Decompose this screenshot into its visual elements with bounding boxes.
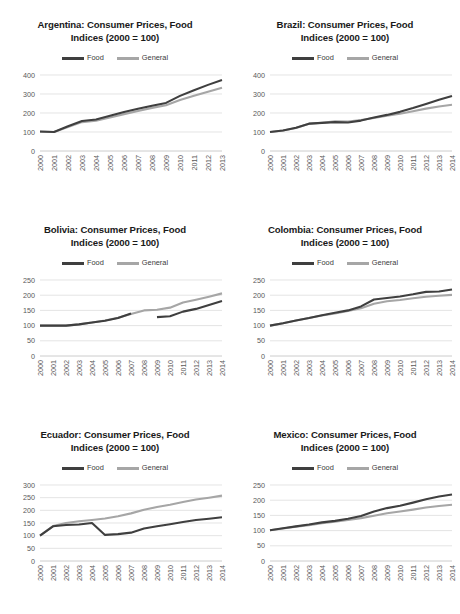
- legend-entry-food[interactable]: Food: [62, 464, 104, 471]
- chart-panel: Brazil: Consumer Prices, FoodIndices (20…: [230, 0, 460, 205]
- legend-entry-food[interactable]: Food: [62, 54, 104, 61]
- x-axis-tick-label: 2005: [331, 565, 340, 581]
- legend-swatch-icon: [347, 262, 369, 265]
- chart-title-line1: Argentina: Consumer Prices, Food: [37, 19, 192, 30]
- legend-label: Food: [317, 259, 334, 266]
- legend-entry-general[interactable]: General: [117, 464, 168, 471]
- y-axis-tick-label: 250: [253, 481, 265, 490]
- chart-legend: FoodGeneral: [230, 257, 460, 269]
- y-axis-tick-label: 100: [253, 321, 265, 330]
- x-axis-tick-label: 2003: [305, 155, 314, 171]
- y-axis-tick-label: 200: [253, 291, 265, 300]
- series-line-food: [270, 289, 452, 325]
- x-axis-tick-label: 2006: [114, 360, 123, 376]
- x-axis-tick-label: 2011: [179, 360, 188, 375]
- chart-panel: Ecuador: Consumer Prices, FoodIndices (2…: [0, 410, 230, 614]
- x-axis-tick-label: 2007: [134, 155, 143, 171]
- legend-entry-general[interactable]: General: [347, 464, 398, 471]
- legend-label: Food: [87, 464, 104, 471]
- line-chart-svg: 0501001502002502000200120022003200420052…: [230, 481, 460, 601]
- x-axis-tick-label: 2000: [36, 155, 45, 171]
- legend-swatch-icon: [347, 57, 369, 60]
- legend-entry-general[interactable]: General: [347, 54, 398, 61]
- chart-title: Argentina: Consumer Prices, FoodIndices …: [0, 0, 230, 44]
- x-axis-tick-label: 2013: [205, 565, 214, 581]
- x-axis-tick-label: 2004: [88, 360, 97, 376]
- legend-entry-general[interactable]: General: [117, 54, 168, 61]
- x-axis-tick-label: 2002: [62, 565, 71, 581]
- x-axis-tick-label: 2011: [190, 155, 199, 170]
- chart-title-line2: Indices (2000 = 100): [14, 31, 216, 44]
- x-axis-tick-label: 2014: [448, 565, 457, 581]
- x-axis-tick-label: 2010: [166, 360, 175, 376]
- x-axis-tick-label: 2000: [266, 155, 275, 171]
- legend-swatch-icon: [292, 262, 314, 265]
- x-axis-tick-label: 2000: [36, 565, 45, 581]
- x-axis-tick-label: 2009: [383, 565, 392, 581]
- chart-title: Colombia: Consumer Prices, FoodIndices (…: [230, 205, 460, 249]
- y-axis-tick-label: 200: [23, 291, 35, 300]
- x-axis-tick-label: 2010: [176, 155, 185, 171]
- legend-swatch-icon: [292, 467, 314, 470]
- x-axis-tick-label: 2011: [409, 155, 418, 170]
- chart-title-line2: Indices (2000 = 100): [244, 441, 446, 454]
- legend-label: Food: [317, 54, 334, 61]
- x-axis-tick-label: 2003: [305, 360, 314, 376]
- legend-label: Food: [87, 259, 104, 266]
- legend-label: Food: [317, 464, 334, 471]
- x-axis-tick-label: 2010: [396, 565, 405, 581]
- y-axis-tick-label: 0: [31, 352, 35, 361]
- chart-title: Mexico: Consumer Prices, FoodIndices (20…: [230, 410, 460, 454]
- y-axis-tick-label: 150: [23, 519, 35, 528]
- x-axis-tick-label: 2004: [318, 155, 327, 171]
- legend-swatch-icon: [62, 262, 84, 265]
- y-axis-tick-label: 0: [261, 557, 265, 566]
- series-line-general: [40, 496, 222, 536]
- y-axis-tick-label: 300: [23, 481, 35, 490]
- chart-title-line1: Brazil: Consumer Prices, Food: [277, 19, 414, 30]
- y-axis-tick-label: 100: [253, 526, 265, 535]
- x-axis-tick-label: 2002: [64, 155, 73, 171]
- legend-entry-general[interactable]: General: [117, 259, 168, 266]
- y-axis-tick-label: 0: [261, 147, 265, 156]
- legend-entry-food[interactable]: Food: [292, 54, 334, 61]
- y-axis-tick-label: 150: [253, 306, 265, 315]
- chart-legend: FoodGeneral: [230, 52, 460, 64]
- x-axis-tick-label: 2006: [344, 155, 353, 171]
- x-axis-tick-label: 2014: [218, 565, 227, 581]
- y-axis-tick-label: 250: [23, 493, 35, 502]
- x-axis-tick-label: 2008: [140, 360, 149, 376]
- chart-legend: FoodGeneral: [0, 52, 230, 64]
- legend-entry-food[interactable]: Food: [62, 259, 104, 266]
- x-axis-tick-label: 2001: [50, 155, 59, 171]
- chart-title-line1: Colombia: Consumer Prices, Food: [268, 224, 422, 235]
- chart-grid: Argentina: Consumer Prices, FoodIndices …: [0, 0, 460, 614]
- x-axis-tick-label: 2004: [92, 155, 101, 171]
- chart-title-line1: Ecuador: Consumer Prices, Food: [41, 429, 190, 440]
- legend-label: General: [372, 259, 398, 266]
- x-axis-tick-label: 2005: [331, 360, 340, 376]
- legend-entry-food[interactable]: Food: [292, 259, 334, 266]
- chart-panel: Mexico: Consumer Prices, FoodIndices (20…: [230, 410, 460, 614]
- y-axis-tick-label: 100: [23, 321, 35, 330]
- plot-area: 0501001502002502000200120022003200420052…: [0, 276, 230, 396]
- x-axis-tick-label: 2002: [292, 155, 301, 171]
- x-axis-tick-label: 2012: [204, 155, 213, 171]
- y-axis-tick-label: 0: [261, 352, 265, 361]
- x-axis-tick-label: 2008: [370, 155, 379, 171]
- x-axis-tick-label: 2008: [370, 565, 379, 581]
- x-axis-tick-label: 2008: [370, 360, 379, 376]
- series-line-food: [270, 96, 452, 132]
- legend-entry-food[interactable]: Food: [292, 464, 334, 471]
- x-axis-tick-label: 2014: [448, 360, 457, 376]
- legend-label: General: [142, 259, 168, 266]
- legend-entry-general[interactable]: General: [347, 259, 398, 266]
- x-axis-tick-label: 2006: [344, 360, 353, 376]
- legend-swatch-icon: [292, 57, 314, 60]
- x-axis-tick-label: 2001: [279, 155, 288, 171]
- chart-legend: FoodGeneral: [0, 257, 230, 269]
- y-axis-tick-label: 50: [27, 336, 35, 345]
- y-axis-tick-label: 400: [253, 71, 265, 80]
- x-axis-tick-label: 2002: [292, 565, 301, 581]
- x-axis-tick-label: 2001: [49, 565, 58, 581]
